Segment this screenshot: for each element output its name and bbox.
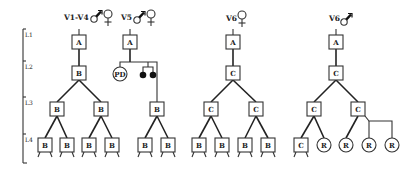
svg-text:R: R [389,141,395,150]
node-leaf: B [82,138,96,157]
node-level3-right: C [249,102,263,116]
tree-v5: V5 A PD B [113,10,175,157]
male-symbol-icon [134,12,145,24]
svg-text:A: A [126,38,133,47]
node-level2: C [329,66,343,80]
node-pd-circle: PD [113,67,127,81]
female-symbol-icon [147,10,155,26]
tree-v6-male: V6 A C C C [294,14,399,158]
tree-v6-female: V6 A C C C [192,11,275,157]
level-label-l3: L3 [25,99,33,106]
svg-text:C: C [253,105,259,114]
svg-text:R: R [366,141,372,150]
svg-text:B: B [86,141,92,150]
filled-dot [150,72,157,79]
female-symbol-icon [238,11,246,27]
svg-text:C: C [208,105,214,114]
node-level3-right: C [351,102,365,116]
node-leaf-circle: R [339,138,353,152]
node-leaf: C [294,138,308,157]
level-label-l1: L1 [25,31,33,38]
node-leaf: B [238,138,252,157]
svg-text:A: A [332,38,339,47]
svg-text:PD: PD [114,70,125,79]
svg-text:B: B [196,141,202,150]
svg-text:B: B [265,141,271,150]
tree-label: V5 [120,13,132,22]
svg-text:B: B [76,69,82,78]
tree-v1-v4: V1-V4 A B B [38,10,119,157]
node-leaf: B [105,138,119,157]
node-leaf: B [192,138,206,157]
male-symbol-icon [91,11,102,23]
svg-text:B: B [154,105,160,114]
svg-text:B: B [165,141,171,150]
node-level3: B [150,102,164,116]
node-level3-right: B [94,102,108,116]
node-leaf: B [161,138,175,157]
svg-text:B: B [54,105,60,114]
node-leaf: B [138,138,152,157]
svg-text:B: B [142,141,148,150]
node-leaf: B [38,138,52,157]
lineage-diagram: L1 L2 L3 L4 V1-V4 A [0,0,413,169]
node-leaf: B [60,138,74,157]
node-root: A [226,35,240,49]
svg-text:B: B [98,105,104,114]
svg-text:C: C [311,105,317,114]
level-axis: L1 L2 L3 L4 [23,29,33,163]
svg-text:B: B [219,141,225,150]
node-root: A [123,35,137,49]
tree-label: V1-V4 [63,13,89,22]
tree-label: V6 [328,14,340,23]
node-leaf: B [261,138,275,157]
tree-label: V6 [225,14,237,23]
node-leaf-circle: R [317,138,331,152]
node-level3-left: B [50,102,64,116]
node-level3-left: C [307,102,321,116]
svg-text:A: A [229,38,236,47]
svg-text:R: R [321,141,327,150]
node-leaf-circle: R [385,138,399,152]
male-symbol-icon [341,14,352,26]
node-leaf-circle: R [362,138,376,152]
node-leaf: B [215,138,229,157]
svg-text:R: R [343,141,349,150]
node-level2: C [226,66,240,80]
filled-dot [140,72,147,79]
svg-text:A: A [75,38,82,47]
level-label-l4: L4 [25,136,33,143]
level-label-l2: L2 [25,63,33,70]
node-root: A [72,35,86,49]
svg-text:B: B [109,141,115,150]
svg-text:C: C [230,69,236,78]
svg-text:C: C [298,141,304,150]
svg-text:B: B [242,141,248,150]
svg-text:C: C [333,69,339,78]
node-root: A [329,35,343,49]
node-level3-left: C [204,102,218,116]
svg-text:B: B [42,141,48,150]
node-level2: B [72,66,86,80]
svg-text:C: C [355,105,361,114]
svg-text:B: B [64,141,70,150]
female-symbol-icon [104,10,112,26]
